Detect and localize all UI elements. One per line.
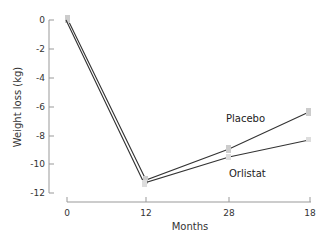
placebo-label: Placebo xyxy=(226,113,265,124)
x-axis-title: Months xyxy=(172,221,209,232)
orlistat-label: Orlistat xyxy=(229,168,266,179)
x-axis: 0 12 28 18 Months xyxy=(64,197,316,232)
placebo-marker xyxy=(226,145,231,153)
y-tick-minus8: -8 xyxy=(36,131,45,141)
y-tick-minus6: -6 xyxy=(36,102,45,112)
y-tick-minus4: -4 xyxy=(36,73,45,83)
x-tick-12: 12 xyxy=(140,208,151,218)
y-tick-0: 0 xyxy=(39,15,45,25)
placebo-marker xyxy=(306,108,311,116)
orlistat-marker xyxy=(226,154,231,160)
series-placebo xyxy=(65,15,311,184)
x-tick-18: 18 xyxy=(304,208,316,218)
y-tick-minus2: -2 xyxy=(36,44,45,54)
series-orlistat xyxy=(66,20,311,187)
placebo-marker xyxy=(65,15,70,23)
x-tick-0: 0 xyxy=(64,208,70,218)
y-tick-minus10: -10 xyxy=(30,159,45,169)
weight-loss-chart: 0 -2 -4 -6 -8 -10 -12 Weight loss (kg) 0… xyxy=(0,0,335,241)
orlistat-marker xyxy=(306,137,311,142)
y-axis-title: Weight loss (kg) xyxy=(12,67,23,148)
orlistat-marker xyxy=(142,180,147,187)
y-tick-minus12: -12 xyxy=(30,188,45,198)
y-axis: 0 -2 -4 -6 -8 -10 -12 Weight loss (kg) xyxy=(12,15,54,198)
x-tick-28: 28 xyxy=(223,208,235,218)
